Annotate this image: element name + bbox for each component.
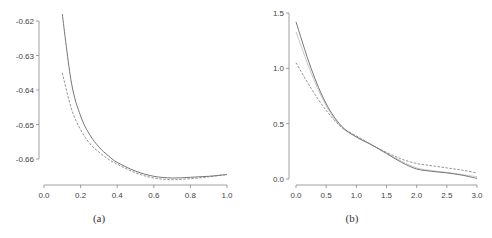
chart-panel-b: 0.00.51.01.50.00.51.01.52.02.53.0(b) bbox=[273, 9, 483, 225]
panel-caption: (b) bbox=[346, 212, 359, 225]
y-tick-label: -0.63 bbox=[16, 52, 35, 61]
y-tick-label: -0.62 bbox=[16, 17, 35, 26]
x-tick-label: 1.0 bbox=[351, 191, 363, 200]
x-tick-label: 0.2 bbox=[75, 191, 87, 200]
x-tick-label: 2.5 bbox=[441, 191, 453, 200]
y-tick-label: 0.0 bbox=[273, 175, 285, 184]
series-light-line bbox=[296, 32, 477, 177]
x-tick-label: 0.8 bbox=[185, 191, 197, 200]
x-tick-label: 0.6 bbox=[148, 191, 160, 200]
x-tick-label: 1.0 bbox=[221, 191, 233, 200]
y-tick-label: -0.65 bbox=[16, 121, 35, 130]
chart-panel-a: -0.62-0.63-0.64-0.65-0.660.00.20.40.60.8… bbox=[16, 14, 233, 225]
series-dashed-line bbox=[296, 63, 477, 173]
y-tick-label: 1.0 bbox=[273, 64, 285, 73]
x-tick-label: 0.4 bbox=[112, 191, 124, 200]
x-tick-label: 1.5 bbox=[381, 191, 393, 200]
x-tick-label: 0.0 bbox=[290, 191, 302, 200]
x-tick-label: 3.0 bbox=[471, 191, 483, 200]
panel-caption: (a) bbox=[93, 212, 106, 225]
x-tick-label: 0.0 bbox=[38, 191, 50, 200]
figure: -0.62-0.63-0.64-0.65-0.660.00.20.40.60.8… bbox=[0, 0, 492, 238]
y-tick-label: 1.5 bbox=[273, 9, 285, 18]
series-dashed-line bbox=[62, 73, 227, 180]
x-tick-label: 0.5 bbox=[321, 191, 333, 200]
y-tick-label: 0.5 bbox=[273, 120, 285, 129]
y-tick-label: -0.64 bbox=[16, 86, 35, 95]
y-tick-label: -0.66 bbox=[16, 155, 35, 164]
x-tick-label: 2.0 bbox=[411, 191, 423, 200]
series-solid-line bbox=[62, 14, 227, 178]
